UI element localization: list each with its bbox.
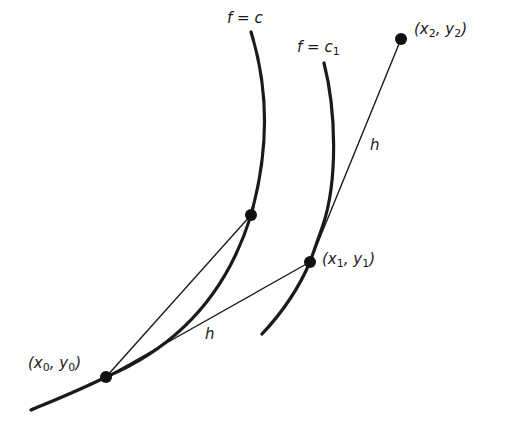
point-p1 (304, 256, 316, 268)
p1-xsub: 1 (337, 257, 344, 270)
label-h-upper: h (370, 138, 380, 153)
p1-open: (x (322, 250, 337, 268)
step-segment-h-lower (106, 262, 310, 377)
p1-close: ) (369, 250, 375, 268)
label-point-p2: (x2, y2) (414, 22, 467, 39)
p0-xsub: 0 (43, 361, 50, 374)
p2-xsub: 2 (429, 27, 436, 40)
label-h-lower: h (205, 327, 215, 342)
label-curve-c1-sub: 1 (333, 45, 340, 58)
label-curve-c: f = c (227, 11, 263, 26)
label-point-p0: (x0, y0) (28, 356, 81, 373)
p1-mid: , y (344, 250, 362, 268)
p0-open: (x (28, 354, 43, 372)
point-p0 (100, 371, 112, 383)
p2-close: ) (461, 20, 467, 38)
p2-open: (x (414, 20, 429, 38)
chord-segment (106, 215, 251, 377)
point-mid-on-curve-c (245, 209, 257, 221)
step-segment-h-upper (310, 39, 401, 262)
p2-mid: , y (436, 20, 454, 38)
label-curve-c1-main: f = c (297, 38, 333, 56)
point-p2 (395, 33, 407, 45)
level-curve-c1 (262, 63, 334, 334)
p0-mid: , y (50, 354, 68, 372)
label-curve-c1: f = c1 (297, 40, 340, 57)
p0-close: ) (75, 354, 81, 372)
label-point-p1: (x1, y1) (322, 252, 375, 269)
